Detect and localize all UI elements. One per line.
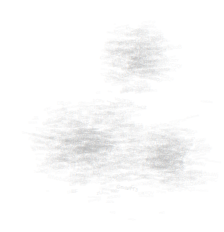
- cloud-token: VbUhx9HEu: [103, 134, 119, 138]
- cloud-token: dPrX: [167, 125, 173, 128]
- cloud-token: JD7b: [106, 201, 114, 205]
- cloud-token: HMZm: [128, 219, 136, 222]
- cloud-token: dIxJbKmk: [186, 114, 200, 120]
- cloud-token: 5vn: [107, 100, 111, 103]
- cloud-token: GK7: [178, 147, 187, 152]
- cloud-token: fRdyc: [47, 124, 58, 129]
- cloud-token: yyN: [104, 61, 109, 64]
- cloud-token: 0pGbTwv: [95, 159, 110, 163]
- cloud-token: HV1: [159, 211, 165, 215]
- cloud-token: BF: [71, 189, 78, 195]
- cloud-token: 63Q: [110, 211, 116, 214]
- cloud-token: Ia: [61, 148, 66, 154]
- cloud-token: bNtjI: [100, 119, 110, 124]
- cloud-token: jF: [172, 161, 175, 165]
- cloud-token: NBaXn9: [159, 129, 168, 132]
- cloud-token: 1qpt: [185, 161, 194, 166]
- cloud-token: R8: [89, 139, 93, 143]
- token-layer: Xfjc7hHnazZPkyKPVxRWmBmocEkXCxVjbCMbHA1d…: [0, 0, 224, 232]
- cloud-token: sK: [173, 183, 181, 190]
- cloud-token: fiIfvbf: [47, 174, 61, 182]
- cloud-token: GsxlvTT3: [116, 184, 138, 193]
- cloud-token: MX: [120, 90, 125, 94]
- cloud-token: j5y: [191, 150, 194, 153]
- cloud-token: d7: [43, 108, 48, 112]
- cloud-token: Tq: [164, 162, 169, 167]
- cloud-token: bP5: [107, 91, 112, 94]
- cloud-token: Wgilo: [92, 120, 99, 123]
- cloud-token: Sk6a: [28, 121, 37, 126]
- cloud-token: PfMKA: [139, 159, 149, 163]
- cloud-token: rb: [113, 23, 115, 25]
- cloud-token: Nlv: [109, 184, 114, 188]
- cloud-token: WNxORmC3: [205, 159, 221, 164]
- cloud-token: BcD: [105, 81, 111, 84]
- cloud-token: vtgeiX: [161, 67, 177, 73]
- cloud-token: W8: [61, 139, 67, 144]
- cloud-token: cJoHD5t: [59, 124, 72, 128]
- cloud-token: qk: [32, 149, 35, 152]
- cloud-token: 7Pijzq: [156, 191, 166, 195]
- cloud-token: mFp5tPStE: [169, 118, 187, 124]
- cloud-token: aaPhB0B: [124, 62, 140, 67]
- cloud-token: WUTu: [167, 154, 181, 161]
- cloud-token: s9: [64, 158, 69, 163]
- cloud-token: O2: [96, 91, 101, 95]
- cloud-token: feo4EAdH: [88, 196, 101, 199]
- cloud-token: 7wz: [34, 171, 40, 175]
- cloud-token: fCyhE: [45, 153, 57, 158]
- cloud-token: 3THJdz: [87, 131, 104, 136]
- cloud-token: 496vUn: [126, 156, 136, 160]
- cloud-token: yB: [114, 59, 120, 64]
- cloud-token: g7X: [83, 146, 91, 151]
- cloud-token: nJalE8m: [201, 100, 213, 104]
- cloud-token: e8L: [130, 84, 135, 88]
- cloud-token: 14N: [35, 146, 45, 152]
- cloud-token: 1e: [46, 190, 49, 193]
- cloud-token: PO: [177, 161, 181, 164]
- cloud-token: rI: [37, 140, 39, 144]
- cloud-token: wXQV: [141, 191, 154, 196]
- word-cloud-canvas: Xfjc7hHnazZPkyKPVxRWmBmocEkXCxVjbCMbHA1d…: [0, 0, 224, 232]
- cloud-token: HZol8DN: [158, 48, 173, 52]
- cloud-token: LhxDpr5Ct: [196, 190, 209, 193]
